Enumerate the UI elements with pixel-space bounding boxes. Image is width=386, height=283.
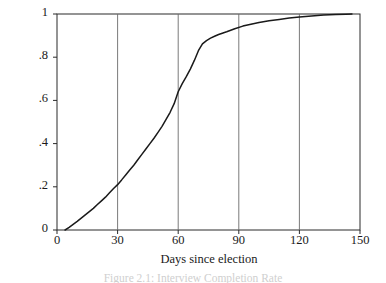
x-tick-label-90: 90 (224, 233, 254, 248)
x-tick-label-150: 150 (345, 233, 375, 248)
x-tick-label-30: 30 (103, 233, 133, 248)
y-tick-label-0_4: .4 (18, 135, 48, 150)
y-tick-label-0: 0 (18, 221, 48, 236)
y-tick-label-1: 1 (18, 5, 48, 20)
plot-frame (57, 14, 360, 230)
y-axis-ticks (53, 14, 57, 230)
x-tick-label-120: 120 (284, 233, 314, 248)
figure-container: % Proportion of interviews completed 030… (0, 0, 386, 283)
x-tick-label-60: 60 (163, 233, 193, 248)
y-tick-label-0_2: .2 (18, 178, 48, 193)
y-tick-label-0_6: .6 (18, 91, 48, 106)
y-tick-label-0_8: .8 (18, 48, 48, 63)
figure-caption: Figure 2.1: Interview Completion Rate (0, 272, 386, 283)
plot-frame-rect (57, 14, 360, 230)
x-axis-label: Days since election (57, 252, 361, 267)
